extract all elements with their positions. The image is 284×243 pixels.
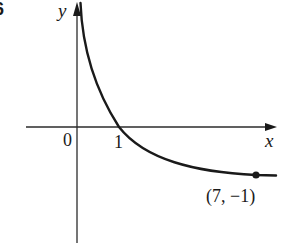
x-intercept-label: 1	[114, 133, 123, 151]
origin-label: 0	[63, 131, 72, 149]
panel-label: 6	[0, 0, 4, 18]
point-label: (7, −1)	[206, 187, 255, 205]
y-axis-label: y	[58, 1, 66, 20]
y-axis	[73, 2, 81, 243]
function-curve	[81, 3, 277, 176]
x-axis-label: x	[265, 131, 273, 150]
graph-canvas	[0, 0, 284, 243]
point-marker-icon	[252, 171, 259, 178]
